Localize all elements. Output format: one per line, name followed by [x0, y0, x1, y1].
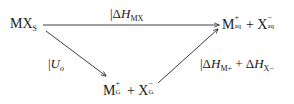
edge-label-top-enthalpy-solution: |ΔHMX [110, 7, 143, 23]
node-gas-ions: M+G + X−G [103, 83, 156, 98]
node-aqueous-ions: M+aq + X−aq [222, 17, 275, 32]
gas-plus: + [127, 83, 135, 98]
right-delta2: Δ [246, 56, 254, 71]
right-subscript2: X− [264, 64, 274, 73]
aq-anion-phase: aq [267, 23, 274, 30]
aq-anion-charge: − [267, 14, 272, 22]
right-subscript1: M+ [220, 64, 232, 73]
top-symbol: H [121, 6, 130, 21]
aq-anion: X [257, 17, 267, 32]
node-solid-mx: MXS [10, 17, 37, 33]
gas-cation-phase: G [115, 89, 120, 96]
top-subscript: MX [130, 14, 143, 23]
aq-cation-phase: aq [234, 23, 241, 30]
gas-anion: X [138, 83, 148, 98]
aq-plus: + [246, 17, 254, 32]
edge-label-left-lattice-energy: |Uo [48, 57, 64, 73]
right-symbol1: H [211, 56, 220, 71]
top-delta: Δ [113, 6, 121, 21]
node-solid-subscript: S [33, 24, 37, 33]
node-solid-main: MX [10, 16, 33, 31]
gas-cation-charge: + [115, 80, 120, 88]
aq-cation-charge: + [234, 14, 239, 22]
left-symbol: U [51, 56, 60, 71]
right-plus: + [235, 56, 242, 71]
gas-cation: M [103, 83, 115, 98]
gas-anion-phase: G [148, 89, 153, 96]
right-delta1: Δ [203, 56, 211, 71]
edge-label-right-hydration-enthalpy: |ΔHM+ + ΔHX− [200, 57, 274, 73]
right-symbol2: H [254, 56, 263, 71]
aq-cation: M [222, 17, 234, 32]
left-subscript: o [60, 64, 64, 73]
gas-anion-charge: − [148, 80, 153, 88]
